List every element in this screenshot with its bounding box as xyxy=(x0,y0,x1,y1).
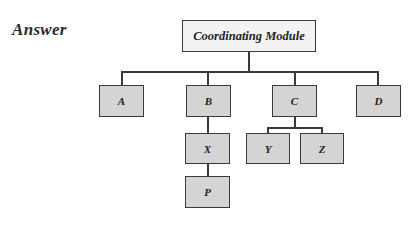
node-b: B xyxy=(186,85,231,117)
node-y: Y xyxy=(246,133,290,164)
connector-to-a xyxy=(121,71,123,85)
node-c: C xyxy=(272,85,317,117)
connector-x-p xyxy=(207,163,209,176)
node-x: X xyxy=(185,133,230,164)
node-coordinating-module: Coordinating Module xyxy=(182,20,316,52)
connector-c-sub-bar xyxy=(267,127,322,129)
connector-to-d xyxy=(377,71,379,85)
node-a: A xyxy=(99,85,144,117)
connector-b-x xyxy=(207,117,209,133)
node-d: D xyxy=(356,85,401,117)
node-p: P xyxy=(185,176,230,208)
connector-root-down xyxy=(248,51,250,71)
connector-c-down xyxy=(294,117,296,127)
connector-level1-bar xyxy=(121,71,379,73)
answer-heading: Answer xyxy=(12,20,67,40)
connector-to-c xyxy=(294,71,296,85)
connector-to-b xyxy=(207,71,209,85)
node-z: Z xyxy=(300,133,344,164)
